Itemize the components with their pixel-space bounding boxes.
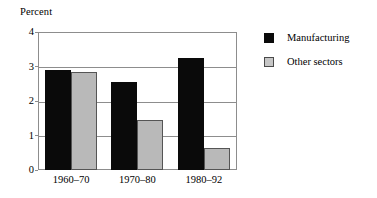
y-tick-mark <box>35 135 38 136</box>
legend-item-label: Manufacturing <box>287 32 349 43</box>
x-axis-tick-labels: 1960–701970–801980–92 <box>38 174 237 190</box>
x-tick-label: 1960–70 <box>38 174 104 190</box>
y-tick-label: 0 <box>12 165 34 175</box>
y-tick-label: 1 <box>12 131 34 141</box>
y-tick-label: 3 <box>12 62 34 72</box>
y-axis-caption: Percent <box>20 6 52 17</box>
legend-item-label: Other sectors <box>287 56 343 67</box>
y-tick-mark <box>35 101 38 102</box>
gridlines <box>39 33 236 169</box>
gridline-2 <box>39 102 236 103</box>
black-square-icon <box>264 33 274 43</box>
x-tick-label: 1970–80 <box>104 174 170 190</box>
y-tick-mark <box>35 32 38 33</box>
gridline-1 <box>39 136 236 137</box>
plot-area <box>38 32 237 170</box>
x-tick-label: 1980–92 <box>171 174 237 190</box>
legend-item: Other sectors <box>264 52 349 71</box>
y-tick-mark <box>35 66 38 67</box>
chart-figure: Percent 01234 1960–701970–801980–92 Manu… <box>0 0 377 198</box>
gridline-3 <box>39 67 236 68</box>
legend-item: Manufacturing <box>264 28 349 47</box>
gray-square-icon <box>264 57 274 67</box>
y-tick-label: 4 <box>12 27 34 37</box>
y-tick-label: 2 <box>12 96 34 106</box>
y-tick-mark <box>35 170 38 171</box>
chart-legend: ManufacturingOther sectors <box>264 28 349 76</box>
